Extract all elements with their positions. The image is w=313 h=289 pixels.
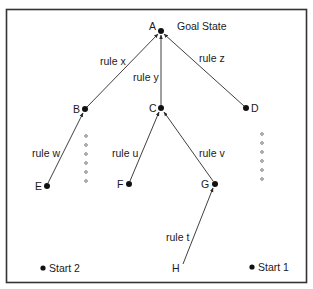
node-b-dot bbox=[82, 106, 88, 112]
edge-label-rule-u: rule u bbox=[112, 147, 138, 159]
edge-label-rule-z: rule z bbox=[199, 52, 225, 64]
node-d-dot bbox=[243, 105, 249, 111]
node-e-dot bbox=[44, 183, 50, 189]
edge-label-rule-w: rule w bbox=[32, 147, 60, 159]
diagram-frame bbox=[7, 10, 307, 283]
node-g-dot bbox=[212, 181, 218, 187]
start-1-dot bbox=[249, 264, 254, 269]
search-tree-diagram: A Goal State B C D E F G H rule x rule y… bbox=[0, 0, 313, 289]
node-a-label: A bbox=[149, 20, 156, 32]
node-f-dot bbox=[126, 181, 132, 187]
start-2-label: Start 2 bbox=[49, 262, 80, 274]
goal-state-label: Goal State bbox=[177, 20, 227, 32]
node-h-label: H bbox=[172, 262, 180, 274]
edge-label-rule-x: rule x bbox=[100, 55, 126, 67]
edge-label-rule-y: rule y bbox=[133, 71, 159, 83]
node-c-label: C bbox=[149, 102, 157, 114]
node-b-label: B bbox=[73, 103, 80, 115]
node-a-dot bbox=[158, 28, 164, 34]
node-g-label: G bbox=[201, 178, 209, 190]
node-f-label: F bbox=[117, 178, 123, 190]
edge-label-rule-v: rule v bbox=[199, 147, 225, 159]
node-d-label: D bbox=[251, 102, 259, 114]
start-2-dot bbox=[40, 265, 45, 270]
node-e-label: E bbox=[35, 180, 42, 192]
edge-label-rule-t: rule t bbox=[166, 231, 189, 243]
start-1-label: Start 1 bbox=[258, 261, 289, 273]
node-c-dot bbox=[158, 105, 164, 111]
